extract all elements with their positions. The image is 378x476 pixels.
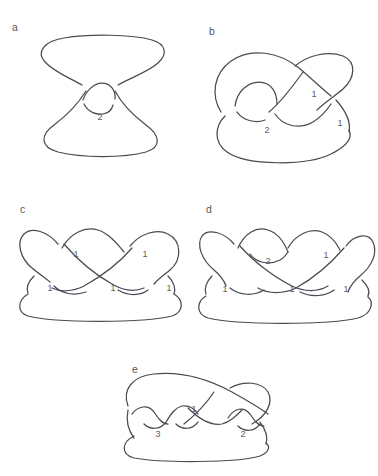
panel-letter-c: c xyxy=(20,204,25,215)
crossing-label: 1 xyxy=(289,284,294,294)
panel-d: 2 1 1 1 1 d xyxy=(196,204,376,322)
panel-b-diagram: 1 1 2 xyxy=(203,26,368,166)
panel-letter-d: d xyxy=(206,204,212,215)
crossing-label: 2 xyxy=(264,125,269,135)
panel-a-strands xyxy=(41,35,164,156)
crossing-label: 1 xyxy=(311,89,316,99)
panel-a-diagram: 2 xyxy=(26,28,174,158)
crossing-label: 1 xyxy=(110,283,115,293)
panel-e: 1 3 2 e xyxy=(110,362,280,462)
panel-d-crossing-labels: 2 1 1 1 1 xyxy=(222,250,348,294)
crossing-label: 1 xyxy=(343,284,348,294)
panel-c-diagram: 1 1 1 1 1 xyxy=(14,204,194,319)
panel-d-strands xyxy=(199,229,375,323)
panel-d-diagram: 2 1 1 1 1 xyxy=(196,204,376,322)
panel-e-diagram: 1 3 2 xyxy=(110,362,280,462)
crossing-label: 1 xyxy=(142,249,147,259)
crossing-label: 1 xyxy=(166,283,171,293)
panel-c-crossing-labels: 1 1 1 1 1 xyxy=(47,249,171,293)
panel-a-crossing-labels: 2 xyxy=(97,112,102,122)
panel-e-strands xyxy=(124,373,270,461)
panel-c-strands xyxy=(20,229,182,321)
crossing-label: 2 xyxy=(265,256,270,266)
knot-figure: 2 a xyxy=(0,0,378,476)
crossing-label: 1 xyxy=(191,404,196,414)
crossing-label: 1 xyxy=(73,249,78,259)
crossing-label: 1 xyxy=(47,283,52,293)
crossing-label: 2 xyxy=(240,429,245,439)
crossing-label: 2 xyxy=(97,112,102,122)
crossing-label: 1 xyxy=(337,118,342,128)
panel-letter-a: a xyxy=(12,22,18,33)
panel-b-strands xyxy=(215,53,353,163)
panel-letter-b: b xyxy=(209,26,215,37)
panel-c: 1 1 1 1 1 c xyxy=(14,204,194,319)
panel-a: 2 a xyxy=(26,28,174,158)
crossing-label: 3 xyxy=(155,429,160,439)
panel-b: 1 1 2 b xyxy=(203,26,368,166)
crossing-label: 1 xyxy=(323,250,328,260)
panel-letter-e: e xyxy=(132,364,138,375)
crossing-label: 1 xyxy=(222,284,227,294)
